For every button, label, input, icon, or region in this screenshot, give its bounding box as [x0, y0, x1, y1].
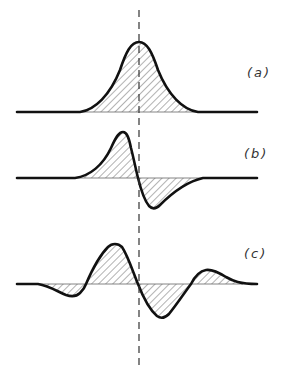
panel-c: [17, 244, 257, 318]
panel-b: [17, 132, 257, 208]
panel-b-label: (b): [244, 146, 268, 161]
panel-c-label: (c): [244, 246, 267, 261]
panel-a-label: (a): [247, 65, 271, 80]
derivative-figure: [0, 0, 284, 382]
panel-a: [17, 42, 257, 112]
panel-b-curve: [17, 132, 257, 208]
